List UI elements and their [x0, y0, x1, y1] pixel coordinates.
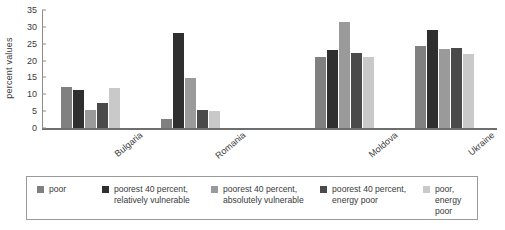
bar [327, 50, 338, 128]
legend-label: poor, energy poor [435, 184, 477, 217]
bar [61, 87, 72, 128]
bar [351, 53, 362, 128]
y-axis-tick-mark [42, 94, 46, 95]
y-axis-tick-label: 0 [32, 124, 37, 133]
y-axis-tick-label: 25 [27, 39, 37, 48]
legend-item: poor [27, 184, 92, 195]
legend-swatch-icon [320, 186, 327, 193]
y-axis-tick-mark [42, 26, 46, 27]
x-axis-category-label: Ukraine [466, 130, 496, 158]
x-axis-category-label: Moldova [367, 130, 399, 160]
legend-item: poorest 40 percent, absolutely vulnerabl… [201, 184, 310, 206]
bar-group [415, 10, 474, 128]
y-axis-title-text: percent values [4, 37, 14, 98]
legend-label: poorest 40 percent, energy poor [332, 184, 413, 206]
y-axis-tick-label: 30 [27, 22, 37, 31]
x-axis-category-labels: BulgariaRomaniaMoldovaUkraine [43, 130, 497, 168]
legend-swatch-icon [102, 186, 109, 193]
bar-group [315, 10, 374, 128]
bar [173, 33, 184, 128]
bars-layer [43, 10, 497, 128]
bar-group [61, 10, 120, 128]
y-axis-tick-mark [42, 128, 46, 129]
y-axis-tick-mark [42, 43, 46, 44]
legend-swatch-icon [37, 186, 44, 193]
bar-group [161, 10, 220, 128]
y-axis-tick-mark [42, 60, 46, 61]
y-axis-tick-label: 35 [27, 6, 37, 15]
legend-item: poorest 40 percent, relatively vulnerabl… [92, 184, 201, 206]
legend-label: poor [49, 184, 66, 195]
bar [85, 110, 96, 128]
bar [161, 119, 172, 128]
legend-label: poorest 40 percent, relatively vulnerabl… [114, 184, 201, 206]
y-axis-tick-mark [42, 10, 46, 11]
x-axis-category-label: Bulgaria [113, 130, 145, 159]
bar [463, 54, 474, 128]
y-axis-tick-label: 20 [27, 56, 37, 65]
y-axis-tick-labels: 05101520253035 [18, 10, 40, 128]
bar [451, 48, 462, 128]
x-axis-category-label: Romania [213, 130, 247, 161]
bar [315, 57, 326, 128]
bar [97, 103, 108, 128]
plot-area: percent values 05101520253035 BulgariaRo… [0, 0, 505, 168]
bar [209, 111, 220, 128]
y-axis-tick-label: 5 [32, 107, 37, 116]
bar [109, 88, 120, 128]
bar [185, 78, 196, 128]
y-axis-tick-label: 15 [27, 73, 37, 82]
legend-swatch-icon [423, 186, 430, 193]
chart-legend: poorpoorest 40 percent, relatively vulne… [26, 176, 478, 220]
bar [339, 22, 350, 128]
bar [197, 110, 208, 128]
legend-item: poorest 40 percent, energy poor [310, 184, 413, 206]
bar [427, 30, 438, 128]
legend-swatch-icon [211, 186, 218, 193]
y-axis-tick-mark [42, 111, 46, 112]
bar-chart: percent values 05101520253035 BulgariaRo… [0, 0, 505, 230]
bar [363, 57, 374, 128]
bar [73, 90, 84, 128]
legend-label: poorest 40 percent, absolutely vulnerabl… [223, 184, 310, 206]
bar [439, 49, 450, 128]
legend-item: poor, energy poor [413, 184, 477, 217]
y-axis-title: percent values [2, 18, 16, 118]
y-axis-tick-label: 10 [27, 90, 37, 99]
y-axis-tick-mark [42, 77, 46, 78]
bar [415, 46, 426, 128]
